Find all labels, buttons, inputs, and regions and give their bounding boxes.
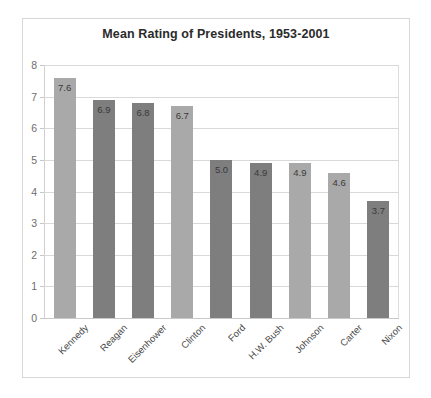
y-tick-mark-4 — [40, 192, 44, 193]
y-tick-mark-7 — [40, 97, 44, 98]
x-axis-category-label: Carter — [338, 322, 364, 348]
bar-value-label: 4.9 — [254, 167, 267, 178]
bar-slot: 6.8 — [123, 65, 162, 318]
bar[interactable]: 4.9 — [289, 163, 311, 318]
bar-value-label: 4.6 — [333, 177, 346, 188]
x-axis-category-label: Johnson — [292, 322, 325, 355]
y-tick-mark-5 — [40, 160, 44, 161]
gridline-0 — [44, 318, 399, 319]
bar-slot: 3.7 — [359, 65, 398, 318]
y-axis-tick-label: 2 — [31, 249, 37, 261]
chart-title: Mean Rating of Presidents, 1953-2001 — [23, 27, 409, 41]
bar-slot: 4.6 — [320, 65, 359, 318]
bar[interactable]: 7.6 — [54, 78, 76, 318]
bar-value-label: 4.9 — [293, 167, 306, 178]
bar[interactable]: 6.9 — [93, 100, 115, 318]
bar[interactable]: 4.9 — [250, 163, 272, 318]
bar-slot: 5.0 — [202, 65, 241, 318]
x-axis-labels: KennedyReaganEisenhowerClintonFordH.W. B… — [45, 320, 400, 378]
y-tick-mark-0 — [40, 318, 44, 319]
y-axis-tick-label: 7 — [31, 91, 37, 103]
x-axis-category-label: Kennedy — [56, 322, 90, 356]
bar-value-label: 5.0 — [215, 164, 228, 175]
bar-slot: 4.9 — [241, 65, 280, 318]
y-axis-tick-label: 1 — [31, 280, 37, 292]
y-tick-mark-6 — [40, 128, 44, 129]
bar-value-label: 6.9 — [97, 104, 110, 115]
bar[interactable]: 3.7 — [367, 201, 389, 318]
bar[interactable]: 6.8 — [132, 103, 154, 318]
y-axis-tick-label: 5 — [31, 154, 37, 166]
x-axis-category-label: H.W. Bush — [247, 322, 287, 362]
x-axis-category-label: Reagan — [98, 322, 129, 353]
bar[interactable]: 5.0 — [210, 160, 232, 318]
bar-value-label: 6.8 — [136, 107, 149, 118]
x-axis-category-label: Clinton — [179, 322, 208, 351]
y-axis-tick-label: 6 — [31, 122, 37, 134]
x-axis-category-label: Nixon — [379, 322, 404, 347]
y-axis-tick-label: 0 — [31, 312, 37, 324]
bar-value-label: 7.6 — [58, 82, 71, 93]
y-tick-mark-2 — [40, 255, 44, 256]
bar-slot: 4.9 — [280, 65, 319, 318]
bar-value-label: 6.7 — [176, 110, 189, 121]
bar[interactable]: 4.6 — [328, 173, 350, 318]
x-axis-category-label: Ford — [225, 322, 247, 344]
y-axis-tick-label: 3 — [31, 217, 37, 229]
y-tick-mark-1 — [40, 286, 44, 287]
chart-figure: Mean Rating of Presidents, 1953-2001 012… — [22, 18, 410, 378]
y-axis-tick-label: 4 — [31, 186, 37, 198]
bar-slot: 6.9 — [84, 65, 123, 318]
y-tick-mark-3 — [40, 223, 44, 224]
y-tick-mark-8 — [40, 65, 44, 66]
bars-layer: 7.66.96.86.75.04.94.94.63.7 — [45, 65, 398, 318]
bar-slot: 7.6 — [45, 65, 84, 318]
y-axis-tick-label: 8 — [31, 59, 37, 71]
plot-area: 012345678 7.66.96.86.75.04.94.94.63.7 — [44, 65, 399, 318]
bar-value-label: 3.7 — [372, 205, 385, 216]
bar[interactable]: 6.7 — [171, 106, 193, 318]
bar-slot: 6.7 — [163, 65, 202, 318]
x-axis-category-label: Eisenhower — [126, 322, 169, 365]
